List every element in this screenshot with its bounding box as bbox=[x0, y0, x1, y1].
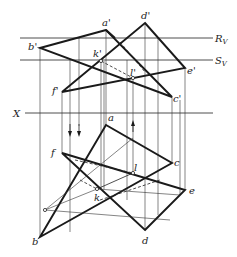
label-f-prime: f' bbox=[51, 85, 58, 96]
label-d: d bbox=[142, 235, 148, 246]
label-e: e bbox=[189, 185, 195, 196]
point-k bbox=[95, 187, 98, 190]
intersection-line-top bbox=[97, 173, 133, 189]
label-b: b bbox=[32, 236, 38, 247]
label-c-prime: c' bbox=[173, 93, 181, 104]
aux-line-4 bbox=[97, 189, 180, 195]
aux-line-1 bbox=[45, 138, 133, 210]
hidden-edge-top-2 bbox=[80, 180, 97, 189]
triangle-abc-front-edge bbox=[106, 30, 115, 38]
label-e-prime: e' bbox=[187, 65, 196, 76]
label-l-prime: l' bbox=[130, 67, 136, 78]
label-l: l bbox=[134, 162, 137, 173]
label-x: X bbox=[12, 108, 21, 119]
triangle-def-front bbox=[62, 23, 185, 92]
point-k-prime bbox=[99, 59, 102, 62]
label-d-prime: d' bbox=[141, 10, 150, 21]
aux-line-2 bbox=[45, 189, 97, 210]
label-k: k bbox=[94, 192, 100, 203]
label-rv: RV bbox=[214, 33, 229, 46]
label-c: c bbox=[174, 157, 180, 168]
arrow-down-icon bbox=[68, 124, 72, 137]
label-f: f bbox=[50, 147, 57, 158]
arrow-up-icon bbox=[131, 120, 135, 132]
aux-line-3 bbox=[45, 210, 170, 220]
point-aux bbox=[43, 208, 46, 211]
label-b-prime: b' bbox=[28, 41, 37, 52]
arrow-down-icon bbox=[77, 124, 81, 137]
triangle-def-top bbox=[62, 153, 185, 230]
projection-diagram: a' b' c' d' e' f' k' l' RV SV X a b c d … bbox=[0, 0, 237, 257]
label-a-prime: a' bbox=[102, 17, 111, 28]
label-a: a bbox=[108, 112, 114, 123]
label-k-prime: k' bbox=[93, 48, 102, 59]
label-sv: SV bbox=[215, 55, 228, 68]
